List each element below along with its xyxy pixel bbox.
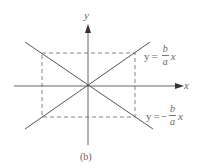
eq-equals: = [154, 110, 160, 122]
denominator: a [170, 116, 175, 127]
eq-sign: − [161, 110, 167, 122]
x-axis-label: x [184, 80, 189, 91]
y-axis-label: y [84, 10, 89, 21]
eq-lhs: y [144, 50, 150, 62]
eq-variable: x [171, 50, 176, 62]
diagram-canvas [0, 0, 199, 168]
numerator: b [169, 104, 176, 116]
denominator: a [163, 56, 168, 67]
figure-caption: (b) [80, 151, 92, 162]
x-axis-arrow-icon [175, 83, 184, 89]
numerator: b [162, 44, 169, 56]
positive-asymptote-equation: y = b a x [144, 44, 176, 67]
fraction: b a [169, 104, 176, 127]
eq-variable: x [178, 110, 183, 122]
eq-lhs: y [146, 110, 152, 122]
fraction: b a [162, 44, 169, 67]
y-axis-arrow-icon [85, 24, 91, 33]
negative-asymptote-equation: y = − b a x [146, 104, 183, 127]
eq-equals: = [152, 50, 158, 62]
